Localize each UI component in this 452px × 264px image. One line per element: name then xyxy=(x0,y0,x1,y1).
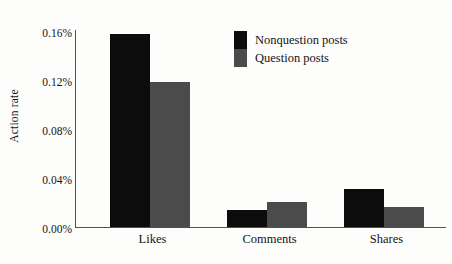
y-axis-title: Action rate xyxy=(2,0,26,232)
y-tick-label-3: 0.04% xyxy=(26,174,72,186)
y-tick-label-1: 0.12% xyxy=(26,76,72,88)
y-tick-label-2: 0.08% xyxy=(26,125,72,137)
legend-item-question: Question posts xyxy=(234,49,348,67)
chart-legend: Nonquestion posts Question posts xyxy=(234,31,348,67)
bar-group-shares xyxy=(344,30,429,227)
legend-swatch-gray-icon xyxy=(234,49,247,67)
bar-group-likes xyxy=(110,30,195,227)
bar-shares-nonquestion xyxy=(344,189,384,227)
bar-chart: Action rate 0.16% 0.12% 0.08% 0.04% 0.00… xyxy=(0,0,452,264)
bar-likes-question xyxy=(150,82,190,227)
legend-item-nonquestion: Nonquestion posts xyxy=(234,31,348,49)
legend-swatch-black-icon xyxy=(234,31,247,49)
bar-likes-nonquestion xyxy=(110,34,150,227)
y-tick-label-0: 0.16% xyxy=(26,27,72,39)
bar-comments-question xyxy=(267,202,307,227)
x-axis-line xyxy=(75,227,446,228)
legend-label-nonquestion: Nonquestion posts xyxy=(255,33,348,47)
x-tick-label-shares: Shares xyxy=(344,232,429,246)
y-axis-tick-labels: 0.16% 0.12% 0.08% 0.04% 0.00% xyxy=(26,0,72,264)
x-tick-label-likes: Likes xyxy=(110,232,195,246)
legend-label-question: Question posts xyxy=(255,51,329,65)
x-tick-label-comments: Comments xyxy=(227,232,312,246)
bar-comments-nonquestion xyxy=(227,210,267,227)
bar-shares-question xyxy=(384,207,424,227)
y-axis-line xyxy=(75,30,76,228)
y-axis-title-text: Action rate xyxy=(8,89,20,143)
y-tick-label-4: 0.00% xyxy=(26,223,72,235)
